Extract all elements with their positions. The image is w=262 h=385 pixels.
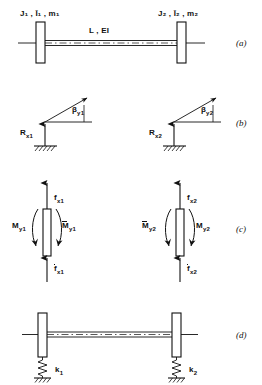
disc-1 (36, 22, 45, 63)
moment-outer-2-label: My2 (196, 222, 210, 232)
ground-hatch-2 (164, 146, 184, 151)
moment-outer-1-label: My1 (12, 222, 26, 232)
force-top-2-label: fx2 (187, 194, 197, 204)
angle-2-label: βy2 (201, 106, 213, 116)
moment-arrowhead-left-1 (32, 239, 39, 247)
panel-b-artwork (34, 98, 221, 151)
moment-arrowhead-left-2 (165, 239, 172, 247)
force-top-1-label: fx1 (54, 194, 64, 204)
panel-tag-b: (b) (236, 118, 247, 128)
figure-artwork (0, 0, 262, 385)
disc-2-supported (172, 313, 181, 357)
ground-hatch-spring-2 (169, 378, 185, 383)
disc-2-label: J₂ , Ī₂ , m₂ (158, 10, 198, 18)
moment-arrowhead-right-2 (189, 239, 196, 247)
ground-hatch-1 (35, 146, 55, 151)
disc-2 (177, 22, 186, 63)
moment-arrowhead-right-1 (56, 239, 63, 247)
disc-1-supported (38, 313, 47, 357)
panel-a-artwork (18, 22, 205, 63)
engineering-figure: J₁ , Ī₁ , m₁ J₂ , Ī₂ , m₂ L , EI Rx1 βy1… (0, 0, 262, 385)
moment-inner-2-label: My2 (142, 222, 156, 232)
force-bottom-1-label: fx1 (54, 265, 64, 275)
spring-2 (172, 357, 181, 378)
force-bottom-2-label: fx2 (187, 265, 197, 275)
element-2 (176, 209, 184, 256)
angle-1-label: βy1 (72, 106, 84, 116)
panel-d-artwork (22, 313, 198, 383)
panel-tag-d: (d) (236, 330, 247, 340)
shaft-property-label: L , EI (89, 27, 109, 35)
element-1 (43, 209, 51, 256)
reaction-1-label: Rx1 (20, 129, 33, 139)
moment-inner-1-label: My1 (62, 222, 76, 232)
spring-1-label: k1 (55, 366, 63, 376)
panel-tag-c: (c) (236, 224, 246, 234)
reaction-2-label: Rx2 (149, 129, 162, 139)
disc-1-label: J₁ , Ī₁ , m₁ (20, 10, 59, 18)
ground-hatch-spring-1 (35, 378, 51, 383)
spring-1 (38, 357, 47, 378)
spring-2-label: k2 (189, 366, 197, 376)
panel-tag-a: (a) (236, 38, 247, 48)
